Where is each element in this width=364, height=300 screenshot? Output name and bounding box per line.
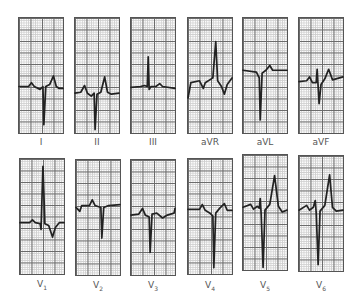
ecg-panel-lead-V2	[75, 159, 121, 276]
ecg-panel-lead-aVL	[242, 17, 288, 134]
ecg-trace-V5	[243, 155, 287, 270]
lead-label-V5: V5	[242, 280, 288, 292]
ecg-trace-aVR	[188, 18, 232, 133]
ecg-trace-V1	[20, 159, 64, 274]
ecg-panel-lead-aVR	[187, 17, 233, 134]
lead-label-I: I	[18, 137, 64, 147]
lead-label-V3: V3	[130, 280, 176, 292]
ecg-panel-lead-V6	[298, 155, 344, 272]
ecg-trace-V3	[131, 160, 175, 275]
lead-label-II: II	[74, 137, 120, 147]
ecg-panel-lead-II	[74, 17, 120, 134]
ecg-panel-lead-I	[18, 17, 64, 134]
ecg-panel-lead-V3	[130, 159, 176, 276]
ecg-panel-lead-V4	[187, 158, 233, 275]
ecg-trace-aVL	[243, 18, 287, 133]
ecg-panel-lead-III	[130, 17, 176, 134]
lead-label-aVF: aVF	[298, 137, 344, 147]
ecg-trace-aVF	[299, 18, 343, 133]
lead-label-V2: V2	[75, 280, 121, 292]
ecg-trace-I	[19, 18, 63, 133]
lead-label-aVR: aVR	[187, 137, 233, 147]
ecg-trace-III	[131, 18, 175, 133]
ecg-panel-lead-aVF	[298, 17, 344, 134]
ecg-panel-lead-V1	[19, 158, 65, 275]
lead-label-V1: V1	[19, 279, 65, 291]
lead-label-III: III	[130, 137, 176, 147]
ecg-trace-V6	[299, 156, 343, 271]
lead-label-V6: V6	[298, 280, 344, 292]
lead-label-V4: V4	[187, 280, 233, 292]
lead-label-aVL: aVL	[242, 137, 288, 147]
ecg-trace-V4	[188, 159, 232, 274]
ecg-trace-V2	[76, 160, 120, 275]
ecg-panel-lead-V5	[242, 154, 288, 271]
ecg-trace-II	[75, 18, 119, 133]
